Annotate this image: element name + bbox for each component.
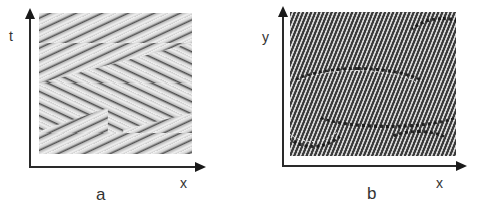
panel-caption-b: b — [367, 185, 376, 202]
y-axis-label: y — [262, 30, 269, 44]
panel-a: t x a — [0, 0, 240, 209]
x-axis-arrow-icon — [195, 162, 206, 172]
t-axis — [29, 14, 31, 167]
t-axis-label: t — [9, 29, 13, 43]
x-axis-b — [282, 165, 458, 167]
x-axis-b-label: x — [436, 176, 443, 190]
x-axis-label: x — [180, 176, 187, 190]
y-axis — [282, 12, 284, 166]
spacetime-pattern-image — [39, 13, 192, 154]
x-axis — [29, 166, 197, 168]
y-axis-arrow-icon — [278, 6, 288, 17]
x-axis-b-arrow-icon — [456, 161, 467, 171]
panel-caption: a — [96, 186, 105, 203]
roll-pattern-image — [290, 12, 456, 156]
t-axis-arrow-icon — [25, 8, 35, 19]
